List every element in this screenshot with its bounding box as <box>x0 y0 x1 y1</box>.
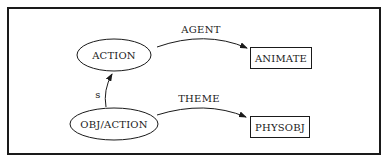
node-obj-action-label: OBJ/ACTION <box>80 119 147 130</box>
node-animate-label: ANIMATE <box>255 53 307 64</box>
semantic-network-diagram: ACTION OBJ/ACTION ANIMATE PHYSOBJ AGENT … <box>0 0 386 161</box>
edge-s-label: s <box>95 89 100 100</box>
edge-agent-label: AGENT <box>181 24 220 35</box>
edge-theme-label: THEME <box>178 93 220 104</box>
edge-theme-arrow <box>157 108 246 117</box>
node-action-label: ACTION <box>92 50 136 61</box>
edge-agent-arrow <box>157 39 247 48</box>
node-physobj-label: PHYSOBJ <box>255 122 305 133</box>
edge-s-arrow <box>105 74 112 107</box>
